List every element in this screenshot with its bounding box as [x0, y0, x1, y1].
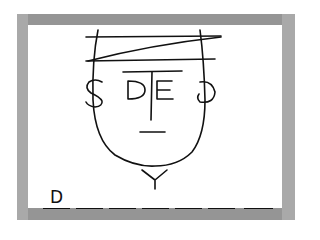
letter-slot: [142, 189, 169, 209]
nose-icon: [151, 72, 152, 120]
word-blanks: D: [43, 189, 278, 209]
letter-slot: [175, 189, 202, 209]
letter-slot: [244, 189, 273, 209]
left-ear-s-icon: [86, 80, 102, 107]
left-eye-d-icon: [128, 81, 145, 99]
letter-slot: [76, 189, 103, 209]
right-eye-e-icon: [157, 81, 173, 99]
letter-slot: D: [43, 189, 70, 209]
head-outline-icon: [93, 30, 205, 166]
letter-slot: [109, 189, 136, 209]
letter-slot: [208, 189, 235, 209]
neck-y-icon: [142, 170, 167, 189]
right-ear-icon: [198, 82, 215, 103]
